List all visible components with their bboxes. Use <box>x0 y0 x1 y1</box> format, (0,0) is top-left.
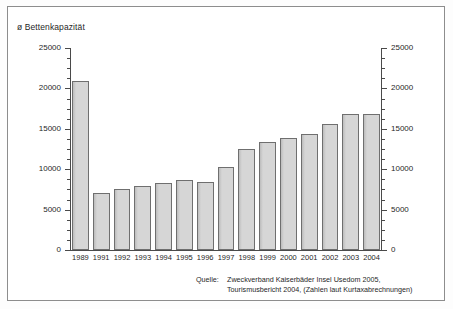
x-tick-label-1993: 1993 <box>132 254 153 262</box>
source-text: Zweckverband Kaiserbäder Insel Usedom 20… <box>227 275 412 294</box>
minor-tick-r <box>382 159 385 160</box>
x-tick-label-1995: 1995 <box>174 254 195 262</box>
source-line: Tourismusbericht 2004, (Zahlen laut Kurt… <box>227 285 412 295</box>
x-tick-label-2003: 2003 <box>340 254 361 262</box>
bar-1995 <box>176 180 193 250</box>
y-tick-label-left: 15000 <box>39 125 70 133</box>
minor-tick-r <box>382 179 385 180</box>
x-tick-label-2000: 2000 <box>278 254 299 262</box>
bar-1991 <box>93 193 110 250</box>
source-line: Zweckverband Kaiserbäder Insel Usedom 20… <box>227 275 412 285</box>
y-tick-label-left: 0 <box>57 246 70 254</box>
chart-figure: ø Bettenkapazität 0500010000150002000025… <box>0 0 453 309</box>
minor-tick-r <box>382 99 385 100</box>
bar-2001 <box>301 134 318 250</box>
bar-2004 <box>363 114 380 250</box>
bar-series <box>70 48 382 250</box>
x-tick-label-1997: 1997 <box>216 254 237 262</box>
source-label: Quelle: <box>196 275 227 285</box>
minor-tick-r <box>382 119 385 120</box>
x-tick-label-2002: 2002 <box>320 254 341 262</box>
minor-tick-r <box>382 68 385 69</box>
bar-1989 <box>72 81 89 250</box>
minor-tick-r <box>382 109 385 110</box>
x-tick-label-2001: 2001 <box>299 254 320 262</box>
minor-tick-r <box>382 149 385 150</box>
x-tick-label-1994: 1994 <box>153 254 174 262</box>
y-tick-label-left: 20000 <box>39 84 70 92</box>
plot-area: 0500010000150002000025000 05000100001500… <box>70 48 382 250</box>
bar-1994 <box>155 183 172 250</box>
minor-tick-r <box>382 230 385 231</box>
x-axis-labels: 1989199119921993199419951996199719981999… <box>70 254 382 266</box>
bar-2000 <box>280 138 297 250</box>
bar-1992 <box>114 189 131 250</box>
bar-1993 <box>134 186 151 250</box>
y-tick-label-left: 25000 <box>39 44 70 52</box>
bar-2002 <box>322 124 339 250</box>
minor-tick-r <box>382 58 385 59</box>
minor-tick-r <box>382 200 385 201</box>
minor-tick-r <box>382 220 385 221</box>
bar-1997 <box>218 167 235 250</box>
y-tick-label-left: 10000 <box>39 165 70 173</box>
minor-tick-r <box>382 189 385 190</box>
bar-1999 <box>259 142 276 250</box>
x-tick-label-1989: 1989 <box>70 254 91 262</box>
x-tick-label-2004: 2004 <box>361 254 382 262</box>
source-note: Quelle:Zweckverband Kaiserbäder Insel Us… <box>196 275 412 294</box>
y-tick-label-right: 15000 <box>382 125 413 133</box>
y-tick-label-right: 5000 <box>382 206 409 214</box>
y-tick-label-left: 5000 <box>43 206 70 214</box>
x-tick-label-1999: 1999 <box>257 254 278 262</box>
x-tick-label-1991: 1991 <box>91 254 112 262</box>
minor-tick-r <box>382 78 385 79</box>
x-axis <box>70 250 382 251</box>
y-tick-label-right: 25000 <box>382 44 413 52</box>
x-tick-label-1998: 1998 <box>236 254 257 262</box>
minor-tick-r <box>382 139 385 140</box>
x-tick-label-1992: 1992 <box>112 254 133 262</box>
y-tick-label-right: 0 <box>382 246 395 254</box>
minor-tick-r <box>382 240 385 241</box>
y-tick-label-right: 20000 <box>382 84 413 92</box>
bar-1996 <box>197 182 214 250</box>
x-tick-label-1996: 1996 <box>195 254 216 262</box>
bar-2003 <box>342 114 359 250</box>
bar-1998 <box>238 149 255 250</box>
chart-title: ø Bettenkapazität <box>17 22 85 32</box>
y-tick-label-right: 10000 <box>382 165 413 173</box>
